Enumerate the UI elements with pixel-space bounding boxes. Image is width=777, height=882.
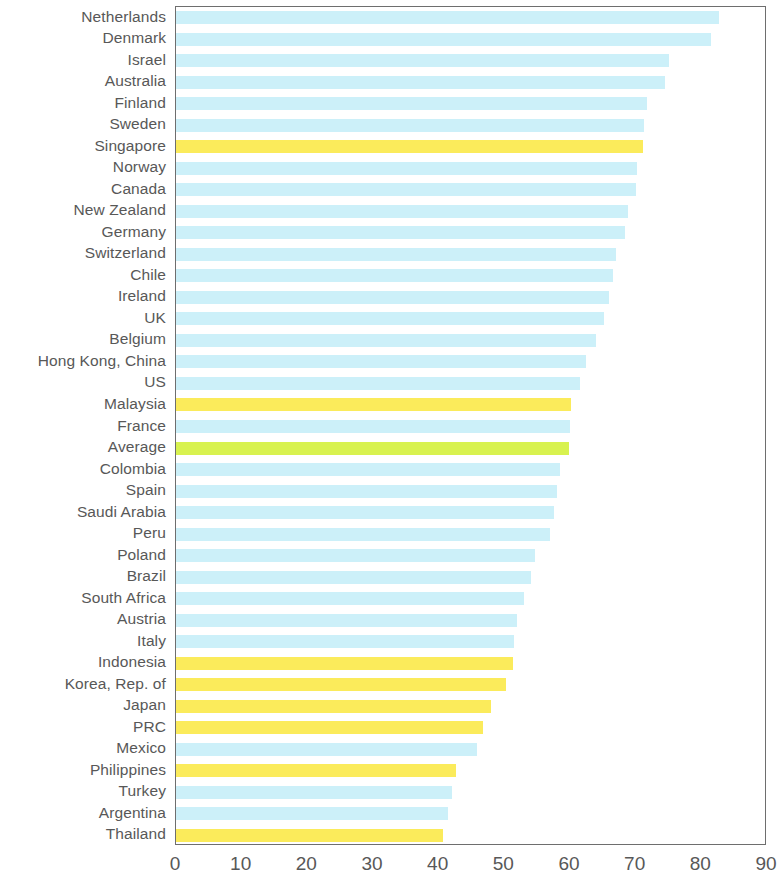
bar	[176, 764, 456, 777]
category-label: South Africa	[81, 590, 166, 606]
bar	[176, 226, 625, 239]
category-label: Average	[108, 439, 166, 455]
category-label: Colombia	[100, 461, 166, 477]
category-label: Indonesia	[98, 654, 166, 670]
bar	[176, 54, 669, 67]
x-tick-label: 30	[361, 853, 382, 875]
category-label: Saudi Arabia	[77, 504, 166, 520]
bar	[176, 442, 569, 455]
bar	[176, 205, 628, 218]
category-label: Spain	[126, 482, 166, 498]
x-tick-label: 20	[296, 853, 317, 875]
bar	[176, 291, 609, 304]
bar	[176, 657, 513, 670]
bar	[176, 549, 535, 562]
bar	[176, 355, 586, 368]
bar	[176, 807, 448, 820]
category-label: Switzerland	[85, 245, 166, 261]
bar	[176, 420, 570, 433]
bar	[176, 162, 637, 175]
bar	[176, 786, 452, 799]
x-tick-label: 90	[755, 853, 776, 875]
category-label: New Zealand	[74, 202, 166, 218]
bar	[176, 678, 506, 691]
category-label: Hong Kong, China	[38, 353, 166, 369]
category-label: Italy	[137, 633, 166, 649]
x-tick-label: 0	[170, 853, 181, 875]
bar	[176, 11, 719, 24]
x-tick-label: 40	[427, 853, 448, 875]
category-label: Canada	[111, 181, 166, 197]
category-label: Korea, Rep. of	[65, 676, 166, 692]
category-label: Netherlands	[81, 9, 166, 25]
category-label: Mexico	[116, 740, 166, 756]
x-tick-label: 10	[230, 853, 251, 875]
category-label: Chile	[130, 267, 166, 283]
category-label: Norway	[113, 159, 166, 175]
category-label: US	[144, 374, 166, 390]
bar	[176, 463, 560, 476]
category-label: Belgium	[109, 331, 166, 347]
bar	[176, 700, 491, 713]
category-label: Sweden	[109, 116, 166, 132]
bar	[176, 635, 514, 648]
bar	[176, 377, 580, 390]
bar	[176, 33, 711, 46]
category-label: Turkey	[119, 783, 166, 799]
x-axis: 0102030405060708090	[175, 845, 766, 882]
category-label: Finland	[114, 95, 166, 111]
bar	[176, 571, 531, 584]
bar	[176, 97, 647, 110]
bar	[176, 248, 616, 261]
bar	[176, 119, 644, 132]
category-label: Germany	[102, 224, 166, 240]
category-label: Peru	[133, 525, 166, 541]
bar	[176, 312, 604, 325]
category-label: Austria	[117, 611, 166, 627]
category-label: France	[117, 418, 166, 434]
category-label: Thailand	[106, 826, 166, 842]
bar	[176, 76, 665, 89]
category-label: Singapore	[94, 138, 166, 154]
category-label: Israel	[127, 52, 166, 68]
category-label: Brazil	[127, 568, 166, 584]
category-label: Philippines	[90, 762, 166, 778]
x-tick-label: 80	[690, 853, 711, 875]
bar	[176, 398, 571, 411]
category-label: UK	[144, 310, 166, 326]
bar	[176, 269, 613, 282]
category-label: Poland	[117, 547, 166, 563]
bar	[176, 485, 557, 498]
bar	[176, 506, 554, 519]
x-tick-label: 50	[493, 853, 514, 875]
bar-chart: NetherlandsDenmarkIsraelAustraliaFinland…	[0, 0, 777, 882]
bar	[176, 140, 643, 153]
bar	[176, 614, 517, 627]
category-label: Australia	[105, 73, 166, 89]
plot-area	[175, 6, 766, 845]
category-label: PRC	[133, 719, 166, 735]
category-label: Ireland	[118, 288, 166, 304]
bar	[176, 721, 483, 734]
category-label: Argentina	[99, 805, 166, 821]
bar	[176, 743, 477, 756]
category-label: Denmark	[102, 30, 166, 46]
x-tick-label: 70	[624, 853, 645, 875]
bar	[176, 183, 636, 196]
category-label: Japan	[123, 697, 166, 713]
bar	[176, 334, 596, 347]
bar	[176, 829, 443, 842]
category-label: Malaysia	[104, 396, 166, 412]
bar	[176, 592, 524, 605]
x-tick-label: 60	[558, 853, 579, 875]
bar	[176, 528, 550, 541]
